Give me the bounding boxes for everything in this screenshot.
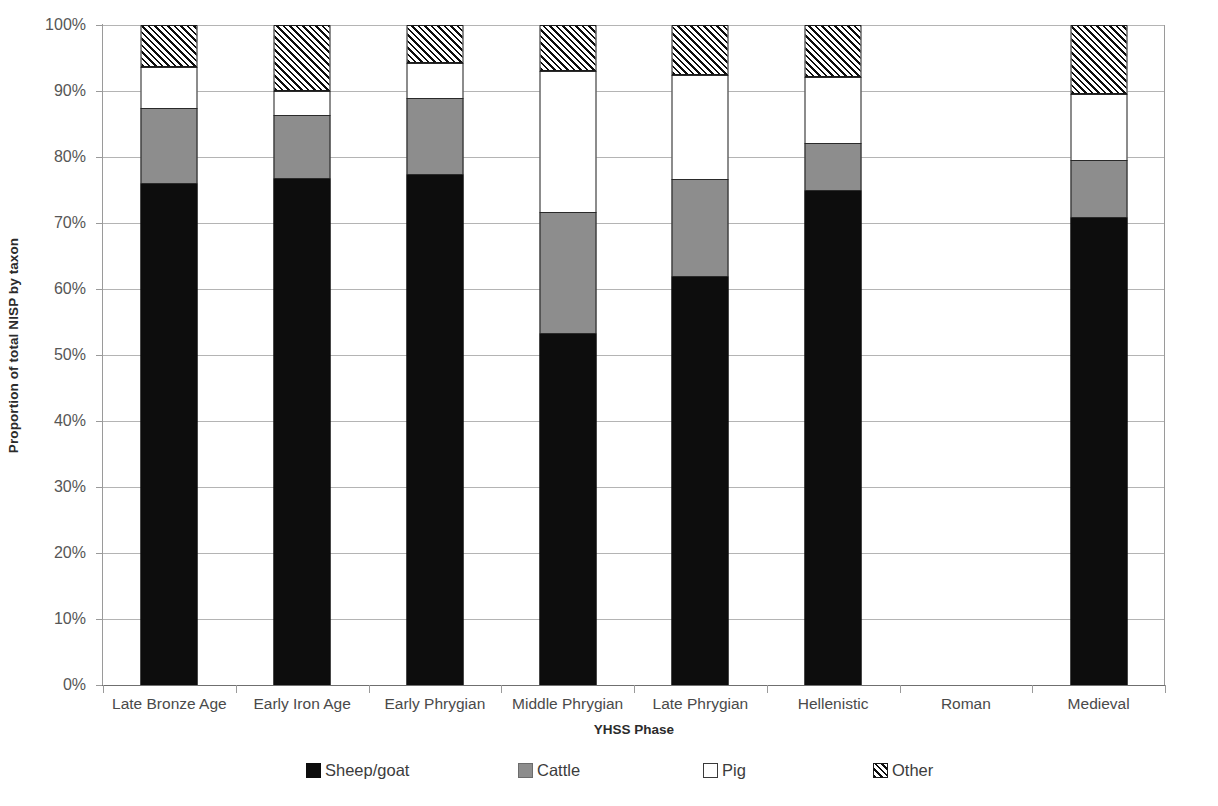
x-axis-tick-label: Hellenistic [767,695,900,713]
bar-group[interactable] [369,25,502,685]
bar-group[interactable] [1032,25,1165,685]
bar-segment[interactable] [539,25,596,71]
x-axis-tick-mark [1165,685,1166,693]
y-axis-tick-label: 100% [45,16,86,34]
bar-segment[interactable] [406,175,463,685]
y-axis-tick-label: 20% [54,544,86,562]
bar-segment[interactable] [141,25,198,67]
bar-segment[interactable] [274,91,331,115]
bar-segment[interactable] [805,77,862,143]
bar-segment[interactable] [406,25,463,63]
legend-label: Sheep/goat [325,761,409,780]
bar-segment[interactable] [672,75,729,179]
bar-segment[interactable] [672,179,729,277]
y-axis-tick-mark [96,421,103,422]
y-axis-title-text: Proportion of total NISP by taxon [7,237,22,452]
bar-segment[interactable] [274,25,331,91]
bar-segment[interactable] [1070,160,1127,219]
bar-segment[interactable] [672,25,729,75]
bar-group[interactable] [767,25,900,685]
y-axis-tick-label: 70% [54,214,86,232]
y-axis-tick-label: 10% [54,610,86,628]
legend-swatch-icon [306,763,321,778]
x-axis-tick-label: Late Bronze Age [103,695,236,713]
bar-segment[interactable] [274,115,331,180]
bar-segment[interactable] [141,184,198,685]
x-axis-tick-mark [767,685,768,693]
legend-swatch-icon [873,763,888,778]
legend-label: Cattle [537,761,580,780]
stacked-bar[interactable] [141,25,198,685]
stacked-bar[interactable] [539,25,596,685]
x-axis-tick-labels: Late Bronze AgeEarly Iron AgeEarly Phryg… [103,695,1165,721]
y-axis-tick-mark [96,487,103,488]
y-axis-tick-label: 0% [63,676,86,694]
stacked-bar[interactable] [805,25,862,685]
bars-layer [103,25,1164,685]
bar-segment[interactable] [805,191,862,685]
stacked-bar[interactable] [274,25,331,685]
legend-swatch-icon [703,763,718,778]
legend-item[interactable]: Sheep/goat [306,758,409,782]
bar-segment[interactable] [539,334,596,685]
y-axis-tick-mark [96,223,103,224]
bar-group[interactable] [900,25,1033,685]
y-axis-tick-label: 50% [54,346,86,364]
x-axis-tick-label: Early Phrygian [369,695,502,713]
y-axis-tick-label: 60% [54,280,86,298]
bar-segment[interactable] [406,98,463,175]
x-axis-tick-mark [1032,685,1033,693]
legend-label: Other [892,761,933,780]
stacked-bar[interactable] [406,25,463,685]
x-axis-tick-label: Roman [900,695,1033,713]
x-axis-title: YHSS Phase [103,722,1165,737]
bar-segment[interactable] [805,143,862,191]
x-axis-tick-mark [501,685,502,693]
x-axis-tick-mark [900,685,901,693]
x-axis-tick-label: Medieval [1032,695,1165,713]
y-axis-tick-mark [96,289,103,290]
x-axis-tick-mark [103,685,104,693]
x-axis-tick-mark [369,685,370,693]
bar-segment[interactable] [1070,94,1127,160]
bar-group[interactable] [634,25,767,685]
chart-legend: Sheep/goatCattlePigOther [103,758,1165,786]
x-axis-tick-label: Early Iron Age [236,695,369,713]
y-axis-title: Proportion of total NISP by taxon [0,0,28,690]
legend-label: Pig [722,761,746,780]
x-axis-tick-label: Middle Phrygian [501,695,634,713]
y-axis-tick-mark [96,157,103,158]
bar-segment[interactable] [1070,218,1127,685]
bar-segment[interactable] [672,277,729,685]
stacked-bar[interactable] [672,25,729,685]
stacked-bar[interactable] [1070,25,1127,685]
y-axis-tick-mark [96,25,103,26]
bar-group[interactable] [236,25,369,685]
y-axis-tick-labels: 0%10%20%30%40%50%60%70%80%90%100% [28,0,94,806]
y-axis-tick-mark [96,91,103,92]
y-axis-tick-label: 30% [54,478,86,496]
bar-segment[interactable] [805,25,862,76]
plot-area [103,25,1165,685]
bar-segment[interactable] [406,63,463,98]
y-axis-tick-mark [96,553,103,554]
y-axis-tick-mark [96,619,103,620]
x-axis-tick-marks [103,685,1165,693]
y-axis-tick-mark [96,355,103,356]
bar-group[interactable] [103,25,236,685]
bar-segment[interactable] [1070,25,1127,94]
bar-segment[interactable] [539,71,596,213]
y-axis-tick-label: 80% [54,148,86,166]
bar-segment[interactable] [141,108,198,184]
legend-item[interactable]: Pig [703,758,746,782]
bar-segment[interactable] [539,212,596,333]
legend-item[interactable]: Other [873,758,933,782]
legend-item[interactable]: Cattle [518,758,580,782]
x-axis-tick-label: Late Phrygian [634,695,767,713]
bar-segment[interactable] [274,179,331,685]
y-axis-tick-label: 40% [54,412,86,430]
x-axis-tick-mark [634,685,635,693]
bar-group[interactable] [501,25,634,685]
legend-swatch-icon [518,763,533,778]
bar-segment[interactable] [141,67,198,109]
